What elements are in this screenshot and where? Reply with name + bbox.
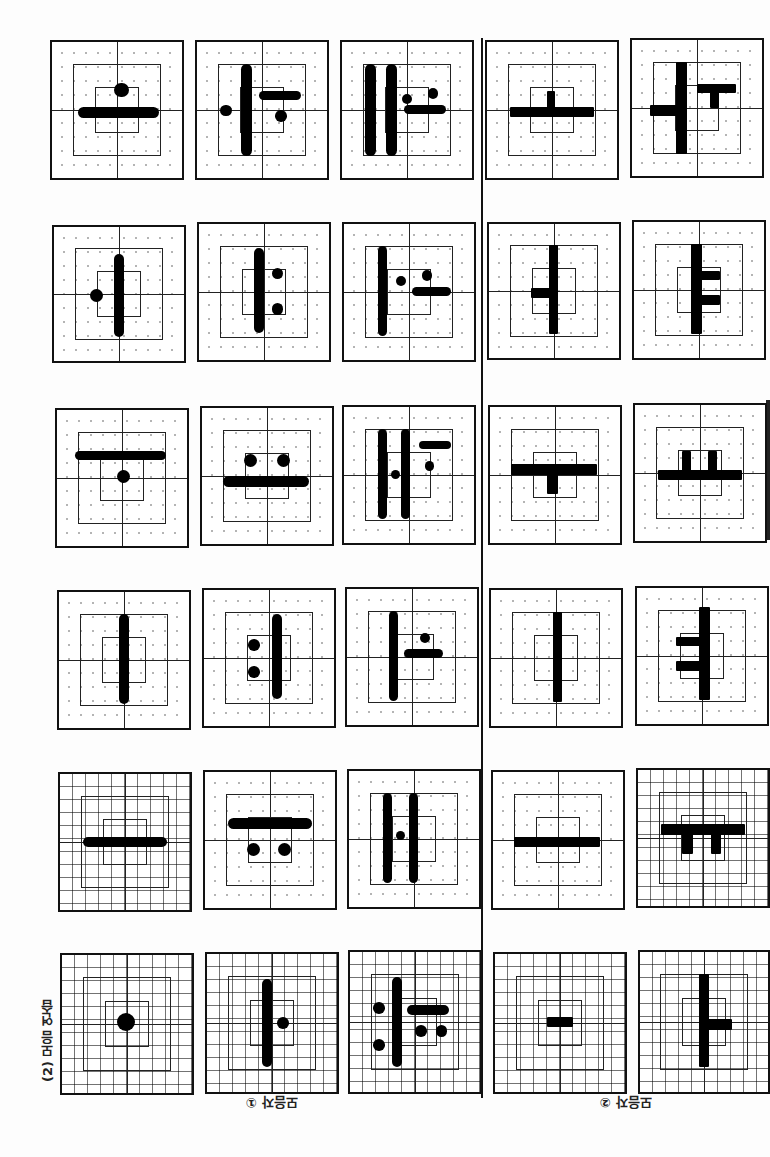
stroke-bar bbox=[378, 246, 387, 336]
stroke-bar bbox=[404, 105, 446, 115]
practice-cell bbox=[347, 769, 481, 909]
stroke-bar bbox=[547, 91, 555, 110]
stroke-bar bbox=[241, 64, 251, 156]
stroke-dot bbox=[275, 110, 287, 122]
stroke-bar bbox=[262, 979, 272, 1067]
stroke-bar bbox=[119, 614, 129, 704]
stroke-bar bbox=[707, 1019, 733, 1030]
practice-cell bbox=[342, 222, 476, 362]
stroke-bar bbox=[553, 612, 562, 702]
stroke-dot bbox=[117, 470, 130, 483]
practice-cell bbox=[205, 952, 339, 1094]
practice-cell bbox=[345, 587, 479, 727]
practice-cell bbox=[630, 38, 764, 178]
stroke-bar bbox=[392, 977, 402, 1067]
stroke-dot bbox=[420, 633, 430, 643]
stroke-dot bbox=[247, 843, 260, 856]
stroke-dot bbox=[272, 303, 284, 315]
stroke-bar bbox=[699, 271, 720, 281]
practice-cell bbox=[632, 220, 766, 360]
stroke-bar bbox=[407, 1005, 449, 1015]
practice-cell bbox=[488, 405, 622, 545]
stroke-bar bbox=[114, 254, 124, 337]
practice-cell bbox=[342, 405, 476, 545]
stroke-bar bbox=[254, 248, 264, 332]
practice-cell bbox=[491, 770, 625, 910]
practice-cell bbox=[348, 950, 482, 1094]
stroke-bar bbox=[708, 451, 717, 473]
stroke-dot bbox=[373, 1039, 385, 1051]
column-divider bbox=[481, 38, 483, 1098]
practice-cell bbox=[487, 222, 621, 360]
stroke-bar bbox=[682, 451, 691, 473]
stroke-bar bbox=[404, 649, 443, 659]
stroke-dot bbox=[114, 83, 128, 97]
practice-cell bbox=[489, 588, 623, 728]
practice-cell bbox=[340, 40, 474, 180]
group-label-1: 모음자 ① bbox=[246, 1094, 298, 1113]
stroke-bar bbox=[710, 89, 719, 108]
practice-cell bbox=[202, 588, 336, 728]
stroke-bar bbox=[409, 793, 418, 883]
stroke-bar bbox=[412, 287, 451, 297]
stroke-bar bbox=[378, 429, 387, 519]
stroke-dot bbox=[248, 666, 260, 678]
practice-cell bbox=[55, 408, 189, 548]
stroke-bar bbox=[547, 1017, 573, 1027]
stroke-bar bbox=[699, 607, 709, 699]
practice-cell bbox=[195, 40, 329, 180]
practice-cell bbox=[200, 406, 334, 546]
practice-cell bbox=[633, 403, 767, 543]
group-label-2: 모음자 ② bbox=[600, 1094, 652, 1113]
stroke-bar bbox=[272, 614, 282, 698]
stroke-bar bbox=[682, 830, 692, 854]
stroke-dot bbox=[436, 1025, 448, 1037]
stroke-bar bbox=[547, 472, 557, 494]
stroke-dot bbox=[422, 270, 432, 280]
stroke-bar bbox=[83, 837, 166, 848]
stroke-dot bbox=[278, 843, 291, 856]
practice-cell bbox=[58, 772, 192, 912]
stroke-bar bbox=[383, 793, 392, 883]
stroke-dot bbox=[248, 639, 260, 651]
stroke-bar bbox=[661, 824, 744, 835]
practice-cell bbox=[60, 953, 194, 1095]
practice-cell bbox=[197, 222, 331, 362]
stroke-dot bbox=[391, 470, 400, 479]
stroke-dot bbox=[396, 831, 405, 840]
practice-cell bbox=[635, 586, 769, 726]
stroke-bar bbox=[691, 244, 701, 334]
stroke-bar bbox=[223, 476, 309, 487]
stroke-bar bbox=[711, 830, 721, 854]
stroke-bar bbox=[658, 470, 741, 480]
practice-cell bbox=[493, 952, 627, 1094]
stroke-bar bbox=[699, 295, 720, 305]
stroke-dot bbox=[117, 1013, 135, 1031]
stroke-bar bbox=[676, 661, 702, 671]
stroke-dot bbox=[277, 1017, 289, 1029]
stroke-bar bbox=[75, 451, 166, 461]
practice-cell bbox=[203, 770, 337, 910]
stroke-bar bbox=[676, 637, 702, 647]
stroke-bar bbox=[514, 837, 600, 847]
stroke-dot bbox=[90, 289, 103, 302]
practice-cell bbox=[636, 768, 770, 908]
stroke-bar bbox=[228, 818, 311, 829]
stroke-dot bbox=[428, 88, 438, 98]
practice-cell bbox=[57, 590, 191, 730]
stroke-bar bbox=[386, 64, 396, 156]
stroke-dot bbox=[244, 454, 257, 467]
stroke-bar bbox=[419, 441, 450, 449]
stroke-bar bbox=[259, 91, 301, 101]
stroke-bar bbox=[365, 64, 375, 156]
stroke-bar bbox=[78, 107, 159, 118]
section-label: (2) 모음 연습 bbox=[38, 1000, 57, 1082]
stroke-bar bbox=[650, 105, 679, 116]
stroke-dot bbox=[425, 461, 434, 470]
stroke-dot bbox=[415, 1025, 427, 1037]
stroke-bar bbox=[401, 429, 410, 519]
stroke-bar bbox=[389, 611, 398, 701]
practice-cell bbox=[485, 40, 619, 180]
practice-cell bbox=[52, 225, 186, 363]
practice-cell bbox=[50, 40, 184, 180]
